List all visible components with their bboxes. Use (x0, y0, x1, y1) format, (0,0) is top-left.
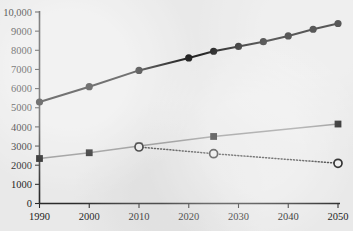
y-axis-tick-label: 1000 (11, 179, 32, 190)
x-axis-tick-label: 2040 (278, 211, 299, 222)
data-point-total (260, 38, 267, 45)
data-point-secondary-solid (210, 133, 217, 140)
data-point-total (285, 32, 292, 39)
y-axis-tick-label: 5000 (11, 102, 32, 113)
y-axis-tick-label: 7000 (11, 64, 32, 75)
x-axis-tick-label: 2000 (79, 211, 100, 222)
data-point-secondary-dotted (210, 150, 218, 158)
y-axis-tick-label: 3000 (11, 141, 32, 152)
y-axis-tick-label: 4000 (11, 122, 32, 133)
data-point-total (36, 98, 43, 105)
x-axis-tick-label: 1990 (29, 211, 50, 222)
line-chart: 010002000300040005000600070008000900010,… (0, 0, 353, 231)
data-point-secondary-dotted (334, 159, 342, 167)
y-axis-tick-label: 9000 (11, 26, 32, 37)
y-axis-tick-label: 6000 (11, 83, 32, 94)
data-point-total (310, 26, 317, 33)
data-point-secondary-solid (335, 121, 342, 128)
data-point-secondary-solid (86, 149, 93, 156)
x-axis-tick-label: 2030 (228, 211, 249, 222)
series-line-secondary-solid (40, 124, 339, 158)
y-axis-tick-label: 0 (27, 198, 32, 209)
series-line-secondary-dotted (139, 147, 338, 163)
data-point-secondary-solid (36, 155, 43, 162)
data-point-total (334, 20, 341, 27)
x-axis-tick-label: 2020 (178, 211, 199, 222)
data-point-total (135, 67, 142, 74)
x-axis-tick-label: 2010 (129, 211, 150, 222)
y-axis-tick-label: 8000 (11, 45, 32, 56)
data-point-total (185, 54, 192, 61)
chart-container: 010002000300040005000600070008000900010,… (0, 0, 353, 231)
x-axis-tick-label: 2050 (328, 211, 349, 222)
data-point-secondary-dotted (135, 143, 143, 151)
y-axis-tick-label: 10,000 (3, 7, 32, 18)
data-point-total (86, 83, 93, 90)
data-point-total (210, 48, 217, 55)
data-point-total (235, 43, 242, 50)
series-line-total (40, 23, 339, 102)
y-axis-tick-label: 2000 (11, 160, 32, 171)
